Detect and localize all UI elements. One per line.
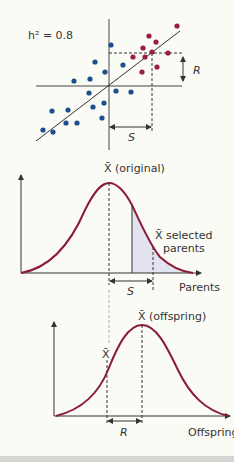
- bottom-border-bar: [0, 456, 234, 462]
- red-data-point: [153, 39, 158, 44]
- red-data-point: [139, 69, 144, 74]
- selected-parents-label-2: parents: [163, 242, 205, 255]
- blue-data-point: [74, 120, 79, 125]
- parents-axis-label: Parents: [179, 281, 220, 294]
- blue-data-point: [120, 62, 125, 67]
- red-data-point: [140, 45, 145, 50]
- blue-data-point: [40, 127, 45, 132]
- blue-data-points: [40, 42, 133, 134]
- blue-data-point: [71, 78, 76, 83]
- red-data-point: [165, 50, 170, 55]
- s-label: S: [128, 131, 135, 144]
- original-mean-label: X̄ (original): [104, 162, 165, 175]
- selection-response-diagram: h² = 0.8 R S X̄ (original) X̄ selected p…: [0, 0, 234, 462]
- original-mean-label-offspring: X̄: [102, 348, 110, 361]
- blue-data-point: [63, 120, 68, 125]
- parents-curve: [21, 183, 193, 273]
- red-selected-data-points: [130, 23, 179, 74]
- red-data-point: [130, 54, 135, 59]
- parents-distribution-chart: X̄ (original) X̄ selected parents S Pare…: [21, 162, 220, 298]
- blue-data-point: [92, 59, 97, 64]
- scatter-plot: h² = 0.8 R S: [28, 19, 201, 150]
- heritability-label: h² = 0.8: [28, 29, 73, 42]
- blue-data-point: [65, 107, 70, 112]
- blue-data-point: [113, 88, 118, 93]
- red-data-point: [174, 23, 179, 28]
- selected-parents-label-1: X̄ selected: [155, 229, 212, 242]
- offspring-axis-label: Offspring: [188, 426, 234, 439]
- offspring-distribution-chart: X̄ (offspring) X̄ R Offspring: [54, 310, 234, 439]
- blue-data-point: [49, 108, 54, 113]
- blue-data-point: [50, 129, 55, 134]
- blue-data-point: [86, 90, 91, 95]
- blue-data-point: [90, 104, 95, 109]
- blue-data-point: [102, 69, 107, 74]
- red-data-point: [146, 33, 151, 38]
- red-data-point: [154, 64, 159, 69]
- red-data-point: [142, 54, 147, 59]
- blue-data-point: [101, 100, 106, 105]
- r-label: R: [193, 64, 201, 77]
- s-label-parents: S: [127, 285, 134, 298]
- blue-data-point: [99, 115, 104, 120]
- offspring-mean-label: X̄ (offspring): [138, 310, 206, 323]
- red-data-point: [149, 49, 154, 54]
- blue-data-point: [87, 76, 92, 81]
- r-label-offspring: R: [120, 426, 128, 439]
- blue-data-point: [108, 42, 113, 47]
- blue-data-point: [128, 89, 133, 94]
